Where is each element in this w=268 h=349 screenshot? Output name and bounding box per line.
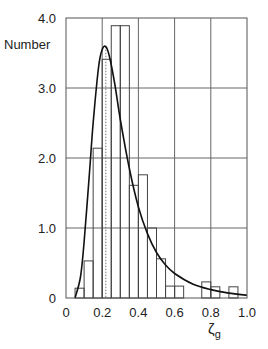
histogram-chart: 01.02.03.04.0 00.20.40.60.81.0 Number ζg: [0, 0, 268, 349]
histogram-bar: [175, 286, 184, 298]
histogram-bar: [211, 287, 220, 298]
y-tick-label: 0: [49, 291, 56, 306]
histogram-bar: [93, 148, 102, 298]
y-tick-label: 1.0: [38, 221, 56, 236]
histogram-bar: [138, 175, 147, 298]
histogram-bar: [111, 26, 120, 298]
x-axis-label-sub: g: [215, 328, 221, 340]
x-tick-label: 0.6: [166, 305, 184, 320]
histogram-bar: [84, 261, 93, 298]
x-tick-label: 0.2: [93, 305, 111, 320]
histogram-bar: [102, 59, 111, 298]
y-axis-ticks: 01.02.03.04.0: [38, 11, 56, 306]
x-tick-label: 0.4: [129, 305, 147, 320]
histogram-bar: [229, 287, 238, 298]
fit-curve: [75, 46, 247, 298]
y-tick-label: 4.0: [38, 11, 56, 26]
x-axis-label: ζg: [208, 320, 221, 340]
x-tick-label: 0.8: [202, 305, 220, 320]
y-tick-label: 3.0: [38, 81, 56, 96]
y-axis-label: Number: [4, 37, 51, 52]
histogram-bars: [75, 26, 238, 298]
x-axis-ticks: 00.20.40.60.81.0: [62, 305, 256, 320]
y-tick-label: 2.0: [38, 151, 56, 166]
histogram-bar: [166, 286, 175, 298]
x-tick-label: 0: [62, 305, 69, 320]
x-tick-label: 1.0: [238, 305, 256, 320]
